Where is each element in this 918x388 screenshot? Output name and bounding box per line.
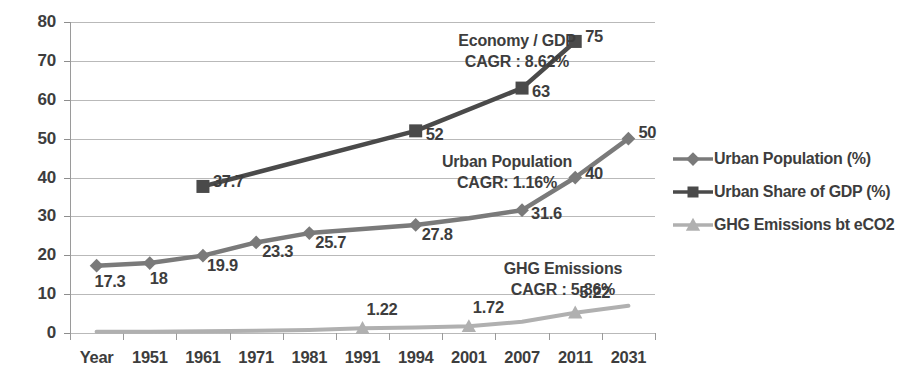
annotation-urban-population-line1: Urban Population bbox=[412, 151, 602, 172]
x-tick-label: 2007 bbox=[504, 348, 540, 367]
x-tick-mark bbox=[389, 333, 390, 340]
data-point-marker bbox=[409, 218, 423, 232]
x-tick-label: Year bbox=[80, 348, 114, 367]
data-point-marker bbox=[90, 259, 104, 273]
data-point-marker bbox=[515, 203, 529, 217]
y-tick-mark bbox=[64, 139, 70, 140]
annotation-ghg-emissions-line2: CAGR : 5.86% bbox=[468, 279, 658, 300]
annotation-economy-gdp: Economy / GDP CAGR : 8.62% bbox=[422, 30, 612, 72]
line-chart: 01020304050607080 Year195119611971198119… bbox=[0, 0, 918, 388]
data-point-marker bbox=[516, 82, 529, 95]
x-tick-label: 2011 bbox=[558, 348, 593, 367]
legend-item[interactable]: Urban Population (%) bbox=[672, 142, 912, 175]
legend-label: Urban Population (%) bbox=[714, 150, 871, 168]
y-tick-label: 10 bbox=[12, 284, 56, 304]
gridline bbox=[70, 255, 655, 256]
legend-item[interactable]: Urban Share of GDP (%) bbox=[672, 175, 912, 208]
x-tick-label: 2001 bbox=[451, 348, 487, 367]
data-point-label: 17.3 bbox=[95, 272, 126, 291]
x-tick-mark bbox=[230, 333, 231, 340]
data-point-label: 27.8 bbox=[422, 225, 453, 244]
annotation-urban-population-line2: CAGR: 1.16% bbox=[412, 172, 602, 193]
x-tick-mark bbox=[336, 333, 337, 340]
legend-marker-triangle-icon bbox=[672, 216, 714, 234]
data-point-marker bbox=[302, 226, 316, 240]
annotation-ghg-emissions: GHG Emissions CAGR : 5.86% bbox=[468, 258, 658, 300]
y-tick-mark bbox=[64, 178, 70, 179]
x-tick-mark bbox=[655, 333, 656, 340]
data-point-label: 25.7 bbox=[315, 233, 346, 252]
data-point-marker bbox=[409, 124, 422, 137]
x-tick-label: 2031 bbox=[611, 348, 647, 367]
data-point-label: 37.7 bbox=[213, 172, 244, 191]
data-point-label: 19.9 bbox=[207, 256, 238, 275]
y-tick-mark bbox=[64, 255, 70, 256]
x-tick-label: 1991 bbox=[345, 348, 381, 367]
x-tick-mark bbox=[176, 333, 177, 340]
y-tick-mark bbox=[64, 61, 70, 62]
x-tick-label: 1994 bbox=[398, 348, 434, 367]
x-tick-label: 1981 bbox=[292, 348, 328, 367]
x-tick-mark bbox=[602, 333, 603, 340]
annotation-economy-gdp-line2: CAGR : 8.62% bbox=[422, 51, 612, 72]
legend-item[interactable]: GHG Emissions bt eCO2 bbox=[672, 208, 912, 241]
data-point-label: 1.72 bbox=[473, 298, 504, 317]
data-point-label: 18 bbox=[150, 269, 168, 288]
y-axis-line bbox=[70, 22, 71, 333]
legend-marker-diamond-icon bbox=[672, 150, 714, 168]
annotation-economy-gdp-line1: Economy / GDP bbox=[422, 30, 612, 51]
y-tick-label: 80 bbox=[12, 12, 56, 32]
data-point-marker bbox=[143, 256, 157, 270]
x-tick-mark bbox=[283, 333, 284, 340]
y-tick-label: 70 bbox=[12, 51, 56, 71]
x-tick-label: 1971 bbox=[238, 348, 274, 367]
gridline bbox=[70, 100, 655, 101]
x-tick-label: 1951 bbox=[132, 348, 168, 367]
data-point-label: 50 bbox=[638, 123, 656, 142]
data-point-marker bbox=[196, 180, 209, 193]
y-tick-label: 60 bbox=[12, 90, 56, 110]
y-tick-label: 40 bbox=[12, 168, 56, 188]
x-tick-mark bbox=[549, 333, 550, 340]
chart-legend: Urban Population (%)Urban Share of GDP (… bbox=[672, 142, 912, 241]
data-point-label: 1.22 bbox=[367, 300, 398, 319]
y-tick-mark bbox=[64, 100, 70, 101]
series-line bbox=[97, 306, 629, 332]
data-point-label: 31.6 bbox=[531, 204, 562, 223]
data-point-marker bbox=[249, 236, 263, 250]
legend-label: Urban Share of GDP (%) bbox=[714, 183, 890, 201]
gridline bbox=[70, 139, 655, 140]
data-point-marker bbox=[568, 306, 582, 319]
x-tick-mark bbox=[70, 333, 71, 340]
x-tick-mark bbox=[495, 333, 496, 340]
gridline bbox=[70, 333, 655, 334]
legend-marker-square-icon bbox=[672, 183, 714, 201]
x-tick-mark bbox=[442, 333, 443, 340]
y-tick-mark bbox=[64, 294, 70, 295]
data-point-label: 23.3 bbox=[262, 242, 293, 261]
y-tick-label: 30 bbox=[12, 206, 56, 226]
y-tick-label: 20 bbox=[12, 245, 56, 265]
y-tick-mark bbox=[64, 216, 70, 217]
annotation-urban-population: Urban Population CAGR: 1.16% bbox=[412, 151, 602, 193]
annotation-ghg-emissions-line1: GHG Emissions bbox=[468, 258, 658, 279]
x-tick-label: 1961 bbox=[185, 348, 221, 367]
data-point-label: 52 bbox=[426, 125, 444, 144]
y-tick-label: 50 bbox=[12, 129, 56, 149]
data-point-marker bbox=[462, 319, 476, 332]
data-point-label: 63 bbox=[532, 82, 550, 101]
x-tick-mark bbox=[123, 333, 124, 340]
y-tick-mark bbox=[64, 22, 70, 23]
y-tick-label: 0 bbox=[12, 323, 56, 343]
gridline bbox=[70, 216, 655, 217]
legend-label: GHG Emissions bt eCO2 bbox=[714, 216, 894, 234]
gridline bbox=[70, 22, 655, 23]
